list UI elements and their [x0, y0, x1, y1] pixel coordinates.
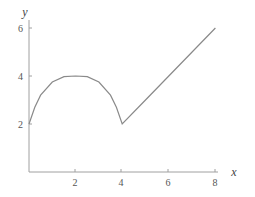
- y-tick-label-2: 2: [18, 119, 23, 130]
- x-tick-label-6: 6: [166, 177, 171, 188]
- y-axis-label: y: [21, 5, 28, 19]
- y-tick-label-4: 4: [18, 71, 23, 82]
- x-tick-label-4: 4: [119, 177, 124, 188]
- y-tick-label-6: 6: [18, 23, 23, 34]
- x-axis-label: x: [230, 165, 237, 179]
- x-tick-label-2: 2: [73, 177, 78, 188]
- chart: 6 4 2 2 4 6 8 y x: [0, 0, 255, 197]
- series-line: [29, 28, 215, 124]
- y-ticks: 6 4 2: [18, 23, 32, 130]
- x-tick-label-8: 8: [213, 177, 218, 188]
